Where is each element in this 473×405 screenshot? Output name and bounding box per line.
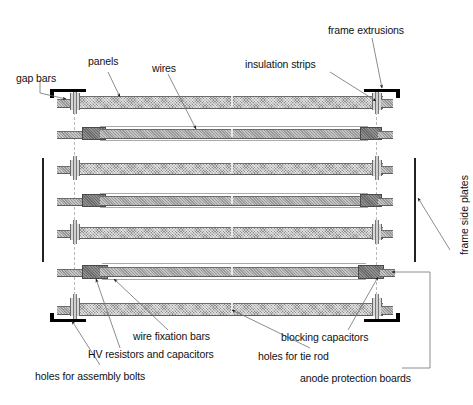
wire-upper: [100, 126, 368, 127]
bar-stub-left: [57, 198, 85, 206]
wire-fixation-bar: [100, 129, 368, 139]
label-hv-resistors-capacitors: HV resistors and capacitors: [88, 348, 214, 360]
label-panels: panels: [88, 55, 118, 67]
diagram-canvas: gap bars panels wires insulation strips …: [0, 0, 473, 405]
bottom-right-gap-bar-bracket: [364, 313, 400, 322]
bar-stub-right: [381, 99, 393, 108]
label-holes-for-tie-rod: holes for tie rod: [258, 350, 329, 362]
assembly-bolt-right: [372, 224, 380, 240]
assembly-bolt-left: [70, 160, 78, 176]
bar-stub-left: [57, 131, 85, 139]
top-left-gap-bar-bracket: [50, 89, 86, 98]
label-wire-fixation-bars: wire fixation bars: [133, 330, 210, 342]
wire-upper: [102, 263, 366, 264]
top-right-gap-bar-bracket: [364, 89, 400, 98]
wire-upper: [100, 193, 368, 194]
assembly-bolt-left: [70, 224, 78, 240]
wire-fixation-bar: [100, 196, 368, 206]
bolt-stem: [73, 220, 77, 244]
label-gap-bars: gap bars: [16, 72, 56, 84]
label-wires: wires: [152, 62, 176, 74]
wire-fixation-bar: [100, 267, 368, 277]
label-holes-for-assembly-bolts: holes for assembly bolts: [35, 370, 145, 382]
bar-stub-left: [57, 269, 85, 277]
label-insulation-strips: insulation strips: [245, 58, 316, 70]
bar-seam: [231, 96, 233, 107]
wire-lower: [100, 207, 368, 208]
label-frame-side-plates: frame side plates: [458, 175, 470, 255]
bolt-stem: [73, 156, 77, 180]
bottom-left-gap-bar-bracket: [50, 313, 86, 322]
bar-seam: [231, 196, 233, 204]
bolt-stem: [375, 220, 379, 244]
bar-seam: [231, 303, 233, 314]
bolt-stem: [375, 156, 379, 180]
centre-line-left: [74, 92, 75, 320]
wire-lower: [102, 279, 366, 280]
assembly-bolt-right: [372, 160, 380, 176]
label-blocking-capacitors: blocking capacitors: [281, 331, 368, 343]
bar-stub-right: [378, 131, 393, 139]
label-anode-protection-boards: anode protection boards: [300, 372, 411, 384]
bar-stub-right: [378, 198, 393, 206]
left-frame-side-plate: [42, 158, 44, 262]
bar-stub-right: [380, 269, 395, 277]
bar-stub-right: [381, 230, 393, 238]
bar-seam: [231, 227, 233, 237]
label-frame-extrusions: frame extrusions: [328, 24, 404, 36]
bar-seam: [231, 267, 233, 275]
wire-lower: [100, 140, 368, 141]
bar-stub-right: [381, 166, 393, 174]
right-frame-side-plate: [414, 158, 416, 262]
bar-seam: [231, 163, 233, 173]
bar-seam: [231, 129, 233, 137]
